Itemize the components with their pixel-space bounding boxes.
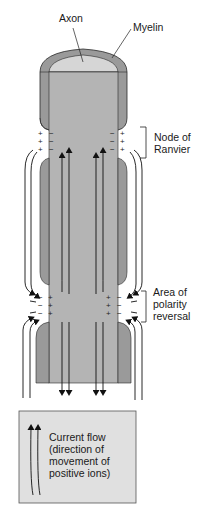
myelin-leader (112, 29, 131, 58)
sign: − (110, 145, 115, 154)
node-bracket (140, 127, 146, 158)
label-polarity-3: reversal (153, 310, 190, 322)
arrow-outside-left-3 (23, 318, 32, 398)
sign: + (106, 309, 111, 318)
sign: + (48, 309, 53, 318)
label-node-of-ranvier-2: Ranvier (154, 143, 191, 155)
sign: + (38, 145, 43, 154)
label-polarity-2: polarity (153, 298, 188, 310)
axon-diagram: Axon Myelin Node of Ranvier Area of pola… (0, 0, 210, 514)
arrow-outside-right-2 (129, 152, 136, 297)
arrow-outside-right-1 (134, 150, 142, 294)
legend-line-2: (direction of (49, 443, 104, 455)
legend-line-4: positive ions) (49, 467, 110, 479)
arrow-outside-left-1 (25, 150, 33, 294)
sign: − (117, 309, 122, 318)
legend-line-3: movement of (49, 455, 110, 467)
sign: + (120, 145, 125, 154)
sign: − (49, 145, 54, 154)
reversal-bracket (141, 291, 146, 322)
label-axon: Axon (59, 12, 83, 24)
label-polarity-1: Area of (153, 286, 187, 298)
label-node-of-ranvier-1: Node of (154, 131, 191, 143)
legend: Current flow (direction of movement of p… (19, 411, 136, 503)
label-myelin: Myelin (133, 21, 164, 33)
axon-core (49, 72, 118, 383)
legend-line-1: Current flow (49, 431, 106, 443)
sign: − (38, 309, 43, 318)
arrow-outside-left-2 (31, 152, 38, 297)
